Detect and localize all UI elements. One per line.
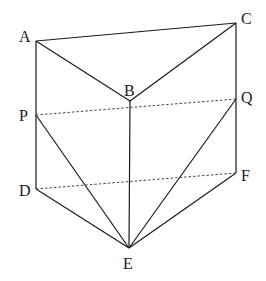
label-B: B: [124, 82, 135, 99]
edge-PQ-dashed: [36, 99, 236, 115]
edge-DE: [36, 189, 129, 248]
edge-EF: [129, 173, 236, 248]
label-Q: Q: [241, 89, 253, 106]
edge-BC: [130, 23, 236, 101]
label-F: F: [241, 167, 250, 184]
edge-DF-dashed: [36, 173, 236, 189]
edge-QE: [129, 99, 236, 248]
prism-diagram: A C B P Q D F E: [0, 0, 266, 281]
edge-AC: [36, 23, 236, 41]
label-D: D: [19, 182, 31, 199]
label-C: C: [241, 10, 252, 27]
label-P: P: [19, 107, 28, 124]
edge-AB: [36, 41, 130, 101]
edge-BE: [129, 101, 130, 248]
edge-PE: [36, 115, 129, 248]
label-E: E: [123, 255, 133, 272]
label-A: A: [19, 28, 31, 45]
